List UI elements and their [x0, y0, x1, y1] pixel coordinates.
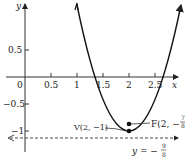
- svg-text:y = −: y = −: [131, 146, 158, 156]
- x-axis-label: x: [172, 80, 177, 90]
- y-tick-label: −1: [11, 126, 24, 136]
- y-axis-label: y: [15, 1, 22, 11]
- x-tick-label: 1: [74, 80, 80, 90]
- svg-text:8: 8: [181, 122, 185, 129]
- x-tick-label: 2: [126, 80, 132, 90]
- focus-point: [127, 122, 132, 127]
- vertex-label: V(2, −1): [73, 123, 108, 132]
- y-tick-label: −0.5: [3, 99, 25, 109]
- vertex-point: [127, 129, 132, 134]
- x-ticks: [51, 73, 155, 77]
- origin-label: 0: [17, 80, 23, 90]
- x-tick-label: 0.5: [44, 80, 59, 90]
- parabola-chart: y x 0 0.5 1 1.5 2 2.5 0.5 −0.5 −1 V(2, −…: [0, 0, 193, 162]
- directrix-label: y = − 9 8: [131, 142, 166, 158]
- svg-text:7: 7: [181, 114, 185, 121]
- svg-text:9: 9: [162, 142, 166, 149]
- y-ticks: [25, 50, 29, 131]
- focus-label: F(2, − 7 8: [151, 114, 185, 129]
- svg-text:8: 8: [162, 151, 166, 158]
- parabola-curve: [77, 5, 181, 131]
- y-tick-label: 0.5: [8, 45, 23, 55]
- svg-text:F(2, −: F(2, −: [151, 119, 180, 129]
